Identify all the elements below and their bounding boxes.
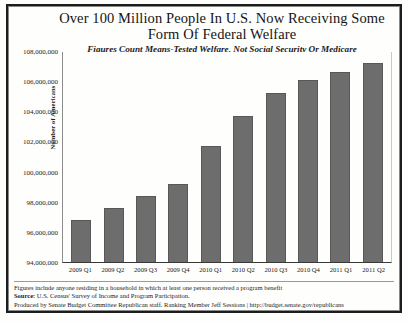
bar-slot xyxy=(162,52,194,262)
bar xyxy=(266,93,286,262)
bar-series xyxy=(63,52,391,262)
chart-title-line-1: Over 100 Million People In U.S. Now Rece… xyxy=(48,10,396,26)
y-axis-tick-label: 98,000,000 xyxy=(8,199,58,207)
chart-page: Over 100 Million People In U.S. Now Rece… xyxy=(0,0,408,321)
x-axis-tick-label: 2011 Q1 xyxy=(325,266,358,273)
x-axis-tick-labels: 2009 Q12009 Q22009 Q32009 Q42010 Q12010 … xyxy=(62,266,392,273)
bar-slot xyxy=(227,52,259,262)
y-axis-tick-label: 94,000,000 xyxy=(8,259,58,267)
bar-slot xyxy=(357,52,389,262)
bar xyxy=(298,80,318,262)
chart-title-line-2: Form Of Federal Welfare xyxy=(48,26,396,42)
bar-slot xyxy=(97,52,129,262)
footnote-producer: Produced by Senate Budget Committee Repu… xyxy=(14,301,394,309)
x-axis-tick-label: 2009 Q2 xyxy=(97,266,130,273)
y-axis-tick-label: 100,000,000 xyxy=(8,169,58,177)
x-axis-tick-label: 2010 Q4 xyxy=(292,266,325,273)
y-axis-tick-label: 102,000,000 xyxy=(8,138,58,146)
bar xyxy=(71,220,91,262)
bar xyxy=(104,208,124,262)
bar xyxy=(168,184,188,262)
bar-slot xyxy=(292,52,324,262)
footnote-source-label: Source: xyxy=(14,292,35,299)
bar-slot xyxy=(130,52,162,262)
x-axis-tick-label: 2010 Q2 xyxy=(227,266,260,273)
bar xyxy=(136,196,156,262)
y-axis-tick-label: 104,000,000 xyxy=(8,108,58,116)
y-axis-tick-label: 106,000,000 xyxy=(8,78,58,86)
bar-slot xyxy=(65,52,97,262)
x-axis-tick-label: 2010 Q1 xyxy=(194,266,227,273)
y-axis-tick-label: 108,000,000 xyxy=(8,48,58,56)
x-axis-tick-label: 2010 Q3 xyxy=(260,266,293,273)
footnotes: Figures include anyone residing in a hou… xyxy=(14,281,394,309)
bar-slot xyxy=(324,52,356,262)
footnote-methodology: Figures include anyone residing in a hou… xyxy=(14,284,394,292)
bar xyxy=(363,63,383,262)
plot-area xyxy=(62,52,392,263)
bar xyxy=(330,72,350,262)
bar xyxy=(233,116,253,262)
x-axis-tick-label: 2009 Q1 xyxy=(64,266,97,273)
x-axis-tick-label: 2011 Q2 xyxy=(357,266,390,273)
chart-title: Over 100 Million People In U.S. Now Rece… xyxy=(48,10,396,42)
figure-frame: Over 100 Million People In U.S. Now Rece… xyxy=(6,4,402,313)
bar-slot xyxy=(195,52,227,262)
x-axis-tick-label: 2009 Q4 xyxy=(162,266,195,273)
footnote-source: Source: U.S. Census' Survey of Income an… xyxy=(14,292,394,300)
bar-slot xyxy=(259,52,291,262)
y-axis-tick-label: 96,000,000 xyxy=(8,229,58,237)
bar xyxy=(201,146,221,262)
x-axis-tick-label: 2009 Q3 xyxy=(129,266,162,273)
footnote-source-text: U.S. Census' Survey of Income and Progra… xyxy=(35,292,189,299)
